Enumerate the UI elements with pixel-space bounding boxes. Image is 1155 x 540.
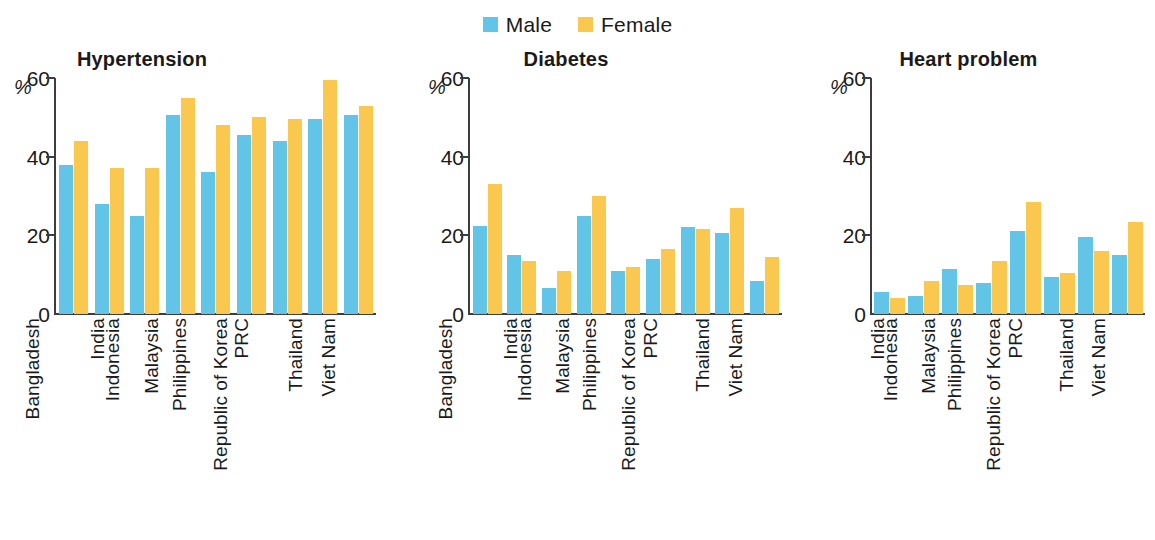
- bar-group: [908, 78, 939, 314]
- bar-female: [557, 271, 571, 314]
- bar-male: [908, 296, 923, 314]
- plot-area: % 6040200 BangladeshIndiaIndonesiaMalays…: [410, 78, 810, 354]
- bar-male: [577, 216, 591, 314]
- bar-female: [488, 184, 502, 314]
- bar-female: [626, 267, 640, 314]
- bar-male: [1078, 237, 1093, 314]
- bar-groups: [56, 78, 376, 314]
- x-axis-label-slot: Viet Nam: [343, 318, 373, 498]
- chart-panel-heart-problem: Heart problem % 6040200 IndiaIndonesiaMa…: [812, 46, 1155, 354]
- axis-area: [870, 78, 1145, 314]
- bar-male: [166, 115, 180, 314]
- bar-female: [323, 80, 337, 314]
- plot-area: % 6040200 BangladeshIndiaIndonesiaMalays…: [4, 78, 404, 354]
- bar-group: [273, 78, 302, 314]
- y-axis-tick-mark: [862, 77, 871, 79]
- x-axis-category-label: Philippines: [579, 318, 598, 411]
- legend-swatch-female: [578, 17, 593, 32]
- x-axis-category-label: Thailand: [1057, 318, 1076, 392]
- y-axis-tick-mark: [46, 234, 55, 236]
- plot-area: % 6040200 IndiaIndonesiaMalaysiaPhilippi…: [812, 78, 1155, 354]
- bar-female: [522, 261, 536, 314]
- bar-female: [661, 249, 675, 314]
- bar-male: [344, 115, 358, 314]
- x-axis-category-label: Bangladesh: [23, 318, 42, 419]
- y-axis-tick-label: 60: [8, 68, 50, 89]
- bar-male: [681, 227, 695, 314]
- x-axis-category-label: Thailand: [286, 318, 305, 392]
- bar-group: [577, 78, 606, 314]
- bar-female: [890, 298, 905, 314]
- x-axis-category-label: Malaysia: [919, 318, 938, 394]
- bar-group: [715, 78, 744, 314]
- bar-group: [874, 78, 905, 314]
- bar-male: [1010, 231, 1025, 314]
- bar-group: [130, 78, 159, 314]
- bar-female: [992, 261, 1007, 314]
- bar-group: [308, 78, 337, 314]
- y-axis-tick-mark: [46, 77, 55, 79]
- bar-male: [95, 204, 109, 314]
- bar-male: [308, 119, 322, 314]
- bar-female: [1128, 222, 1143, 314]
- y-axis-tick-labels: 6040200: [812, 78, 866, 314]
- axis-area: [468, 78, 782, 314]
- bar-group: [942, 78, 973, 314]
- x-axis-label-slot: PRC: [237, 318, 267, 498]
- bar-female: [288, 119, 302, 314]
- bar-male: [874, 292, 889, 314]
- x-axis-category-label: Indonesia: [882, 318, 901, 401]
- x-axis-category-labels: BangladeshIndiaIndonesiaMalaysiaPhilippi…: [470, 318, 782, 498]
- bar-group: [59, 78, 88, 314]
- x-axis-category-label: PRC: [231, 318, 250, 358]
- bar-group: [646, 78, 675, 314]
- bar-group: [166, 78, 195, 314]
- y-axis-tick-label: 0: [824, 304, 866, 325]
- legend-label: Male: [506, 14, 552, 35]
- x-axis-category-label: Republic of Korea: [983, 318, 1002, 471]
- x-axis-category-labels: BangladeshIndiaIndonesiaMalaysiaPhilippi…: [56, 318, 376, 498]
- bar-group: [1112, 78, 1143, 314]
- bar-female: [74, 141, 88, 314]
- bar-male: [750, 281, 764, 314]
- x-axis-category-label: Thailand: [693, 318, 712, 392]
- bar-male: [542, 288, 556, 314]
- bar-female: [958, 285, 973, 315]
- bar-group: [611, 78, 640, 314]
- bar-group: [681, 78, 710, 314]
- y-axis-tick-label: 60: [422, 68, 464, 89]
- y-axis-tick-label: 40: [8, 146, 50, 167]
- y-axis-tick-mark: [460, 234, 469, 236]
- x-axis-label-slot: Viet Nam: [750, 318, 780, 498]
- x-axis-category-label: Viet Nam: [1089, 318, 1108, 397]
- y-axis-tick-label: 20: [422, 225, 464, 246]
- bar-female: [1094, 251, 1109, 314]
- legend-swatch-male: [483, 17, 498, 32]
- bar-male: [130, 216, 144, 314]
- bar-male: [976, 283, 991, 314]
- x-axis-category-label: Viet Nam: [725, 318, 744, 397]
- panel-title: Diabetes: [410, 46, 810, 72]
- bar-male: [715, 233, 729, 314]
- bar-female: [924, 281, 939, 314]
- bar-female: [252, 117, 266, 314]
- x-axis-category-label: Bangladesh: [437, 318, 456, 419]
- bar-male: [59, 165, 73, 314]
- x-axis-category-label: Philippines: [945, 318, 964, 411]
- x-axis-category-label: Malaysia: [553, 318, 572, 394]
- y-axis-tick-mark: [46, 156, 55, 158]
- x-axis-category-label: Republic of Korea: [619, 318, 638, 471]
- x-axis-category-label: Viet Nam: [319, 318, 338, 397]
- bar-group: [201, 78, 230, 314]
- axis-area: [54, 78, 376, 314]
- bar-group: [1078, 78, 1109, 314]
- bar-group: [507, 78, 536, 314]
- x-axis-category-label: PRC: [640, 318, 659, 358]
- bar-female: [1060, 273, 1075, 314]
- y-axis-tick-label: 20: [824, 225, 866, 246]
- bar-female: [216, 125, 230, 314]
- panel-title: Hypertension: [4, 46, 404, 72]
- y-axis-tick-label: 40: [422, 146, 464, 167]
- bar-male: [273, 141, 287, 314]
- x-axis-label-slot: PRC: [1011, 318, 1041, 498]
